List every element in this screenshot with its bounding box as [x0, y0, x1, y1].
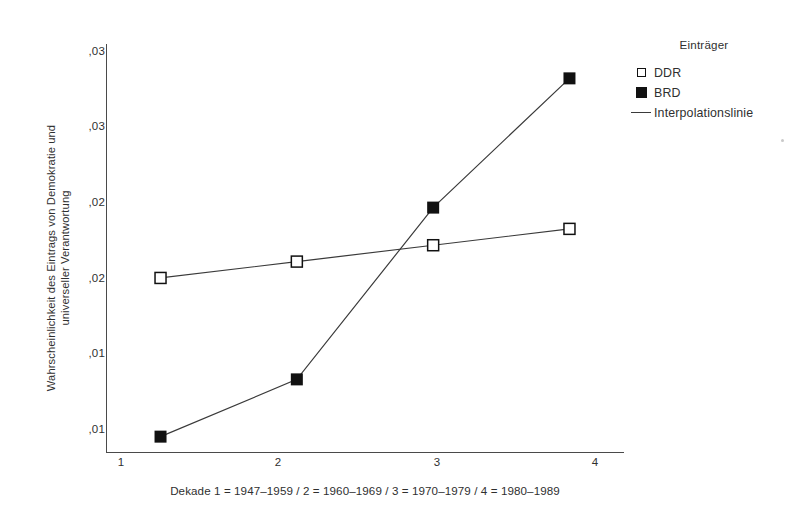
legend-item-ddr[interactable]: DDR — [628, 63, 793, 82]
series-line-brd — [161, 78, 570, 436]
x-tick-label-0: 1 — [101, 456, 141, 468]
x-tick-label-1: 2 — [258, 456, 298, 468]
y-axis-title-line-1: Wahrscheinlichkeit des Eintrags von Demo… — [44, 63, 58, 453]
data-point-brd-4 — [563, 72, 575, 84]
y-tick-label-3: ,02 — [71, 272, 105, 284]
data-point-brd-2 — [291, 373, 303, 385]
series-line-ddr — [161, 229, 570, 278]
data-point-brd-3 — [427, 202, 439, 214]
data-point-ddr-2 — [291, 256, 302, 267]
x-tick-label-2: 3 — [417, 456, 457, 468]
y-tick-label-4: ,01 — [71, 347, 105, 359]
data-point-ddr-1 — [155, 272, 166, 283]
plot-area — [106, 44, 624, 453]
open-square-icon — [628, 68, 654, 77]
x-tick-label-3: 4 — [575, 456, 615, 468]
legend-item-label-interpolationslinie: Interpolationslinie — [654, 106, 753, 120]
y-tick-label-1: ,03 — [71, 120, 105, 132]
data-point-brd-1 — [155, 431, 167, 443]
chart-figure: Wahrscheinlichkeit des Eintrags von Demo… — [0, 0, 795, 528]
line-icon — [628, 112, 654, 113]
data-point-ddr-3 — [428, 240, 439, 251]
y-tick-label-2: ,02 — [71, 196, 105, 208]
x-axis-tick-labels: 1 2 3 4 — [106, 456, 624, 476]
legend-item-label-brd: BRD — [654, 86, 681, 100]
chart-legend: Einträger DDR BRD Interpolationslinie — [628, 38, 793, 123]
x-axis-caption: Dekade 1 = 1947–1959 / 2 = 1960–1969 / 3… — [106, 484, 624, 497]
scan-artifact-speck — [781, 139, 784, 142]
y-axis-tick-labels: ,03 ,03 ,02 ,02 ,01 ,01 — [69, 0, 105, 528]
legend-item-interpolationslinie[interactable]: Interpolationslinie — [628, 103, 793, 122]
filled-square-icon — [628, 87, 654, 98]
y-tick-label-0: ,03 — [71, 45, 105, 57]
y-tick-label-5: ,01 — [71, 423, 105, 435]
legend-item-brd[interactable]: BRD — [628, 83, 793, 102]
legend-item-label-ddr: DDR — [654, 66, 681, 80]
data-point-ddr-4 — [564, 223, 575, 234]
legend-title: Einträger — [640, 38, 768, 51]
